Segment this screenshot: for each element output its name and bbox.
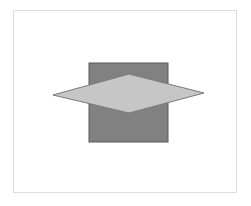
diamond-shape	[53, 74, 204, 113]
diagram-canvas	[0, 0, 251, 206]
